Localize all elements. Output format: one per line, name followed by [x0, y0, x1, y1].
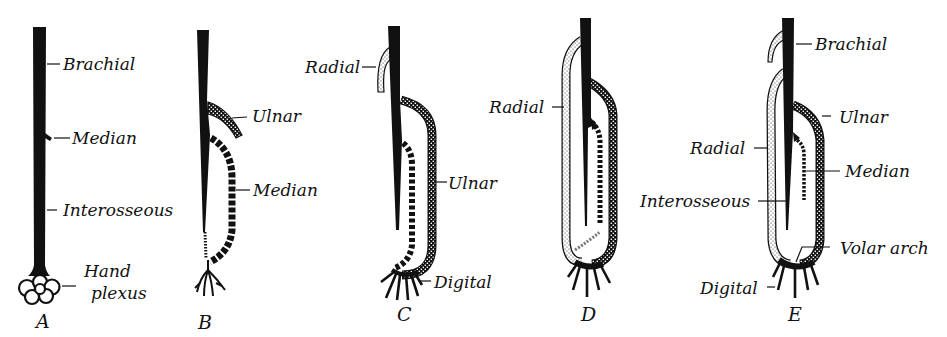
brachial-trunk	[782, 18, 794, 230]
panel-label-d: D	[580, 303, 596, 325]
median-bud	[45, 133, 52, 141]
label-median: Median	[252, 180, 318, 200]
label-interosseous: Interosseous	[62, 200, 174, 220]
ulnar-vessel	[401, 100, 432, 275]
brachial-trunk	[28, 27, 50, 276]
label-digital: Digital	[699, 278, 758, 298]
label-digital: Digital	[433, 272, 492, 292]
artery-development-figure: Brachial Median Interosseous Hand plexus…	[0, 0, 947, 337]
median-vessel	[797, 140, 804, 200]
brachial-trunk	[197, 30, 210, 232]
panel-e: Brachial Ulnar Radial Median Interosseou…	[639, 18, 929, 325]
median-vessel	[592, 122, 600, 225]
brachial-trunk	[388, 26, 402, 230]
label-volar-arch: Volar arch	[840, 238, 929, 258]
label-radial: Radial	[304, 57, 360, 77]
label-ulnar: Ulnar	[252, 106, 302, 126]
panel-label-b: B	[197, 311, 212, 333]
label-radial: Radial	[488, 97, 544, 117]
panel-d: Radial D	[488, 18, 613, 325]
ulnar-stub	[208, 102, 242, 138]
panel-label-c: C	[397, 303, 412, 325]
label-ulnar: Ulnar	[448, 173, 498, 193]
hand-plexus-icon	[19, 275, 60, 304]
label-radial: Radial	[689, 138, 745, 158]
median-vessel	[210, 138, 232, 262]
hand-branches-icon	[195, 260, 225, 296]
digital-rays-icon	[381, 272, 422, 300]
label-median: Median	[71, 128, 137, 148]
digital-rays-icon	[773, 263, 818, 298]
label-median: Median	[844, 161, 910, 181]
label-brachial: Brachial	[62, 54, 135, 74]
label-hand: Hand	[83, 261, 131, 281]
panel-a: Brachial Median Interosseous Hand plexus…	[19, 27, 174, 332]
label-ulnar: Ulnar	[839, 107, 889, 127]
label-plexus: plexus	[91, 283, 147, 303]
label-interosseous: Interosseous	[639, 191, 751, 211]
panel-label-e: E	[787, 303, 802, 325]
label-brachial: Brachial	[814, 34, 887, 54]
radial-stub	[378, 47, 390, 92]
radial-stub	[768, 30, 784, 62]
panel-b: Ulnar Median B	[195, 30, 318, 333]
panel-c: Radial Ulnar Digital C	[304, 26, 498, 325]
panel-label-a: A	[34, 310, 50, 332]
